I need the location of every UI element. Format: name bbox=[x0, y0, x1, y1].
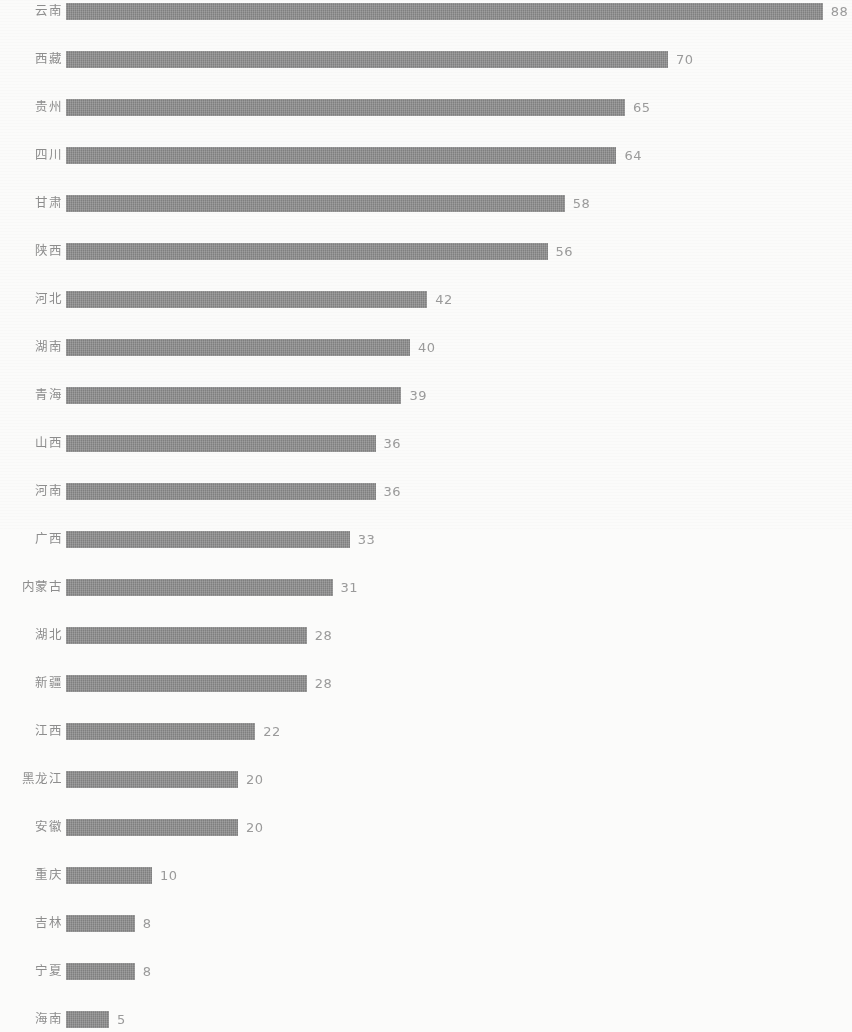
category-label: 湖北 bbox=[35, 624, 62, 648]
bar-wrapper bbox=[66, 147, 616, 164]
bar bbox=[66, 1011, 109, 1028]
bar-row: 湖南40 bbox=[0, 336, 852, 360]
bar-chart-rows: 云南88西藏70贵州65四川64甘肃58陕西56河北42湖南40青海39山西36… bbox=[0, 0, 852, 528]
value-label: 40 bbox=[418, 336, 436, 360]
value-label: 36 bbox=[384, 480, 402, 504]
bar bbox=[66, 531, 350, 548]
bar-row: 青海39 bbox=[0, 384, 852, 408]
bar-row: 湖北28 bbox=[0, 624, 852, 648]
value-label: 8 bbox=[143, 912, 152, 936]
value-label: 20 bbox=[246, 768, 264, 792]
bar-wrapper bbox=[66, 387, 401, 404]
bar bbox=[66, 291, 427, 308]
category-label: 黑龙江 bbox=[22, 768, 62, 792]
value-label: 28 bbox=[315, 624, 333, 648]
value-label: 10 bbox=[160, 864, 178, 888]
bar-row: 新疆28 bbox=[0, 672, 852, 696]
value-label: 56 bbox=[556, 240, 574, 264]
value-label: 31 bbox=[341, 576, 359, 600]
bar-wrapper bbox=[66, 195, 565, 212]
bar bbox=[66, 243, 548, 260]
value-label: 33 bbox=[358, 528, 376, 552]
value-label: 28 bbox=[315, 672, 333, 696]
value-label: 39 bbox=[409, 384, 427, 408]
bar bbox=[66, 915, 135, 932]
category-label: 宁夏 bbox=[35, 960, 62, 984]
category-label: 江西 bbox=[35, 720, 62, 744]
value-label: 70 bbox=[676, 48, 694, 72]
bar-row: 海南5 bbox=[0, 1008, 852, 1032]
bar-row: 河南36 bbox=[0, 480, 852, 504]
value-label: 42 bbox=[435, 288, 453, 312]
bar-row: 宁夏8 bbox=[0, 960, 852, 984]
value-label: 65 bbox=[633, 96, 651, 120]
category-label: 重庆 bbox=[35, 864, 62, 888]
bar bbox=[66, 675, 307, 692]
category-label: 陕西 bbox=[35, 240, 62, 264]
bar bbox=[66, 867, 152, 884]
bar-wrapper bbox=[66, 819, 238, 836]
bar-row: 黑龙江20 bbox=[0, 768, 852, 792]
bar-row: 陕西56 bbox=[0, 240, 852, 264]
bar-wrapper bbox=[66, 339, 410, 356]
category-label: 湖南 bbox=[35, 336, 62, 360]
category-label: 安徽 bbox=[35, 816, 62, 840]
category-label: 吉林 bbox=[35, 912, 62, 936]
bar-row: 广西33 bbox=[0, 528, 852, 552]
bar bbox=[66, 963, 135, 980]
bar-wrapper bbox=[66, 627, 307, 644]
category-label: 云南 bbox=[35, 0, 62, 24]
bar-wrapper bbox=[66, 963, 135, 980]
category-label: 内蒙古 bbox=[22, 576, 62, 600]
bar-wrapper bbox=[66, 291, 427, 308]
bar bbox=[66, 723, 255, 740]
bar bbox=[66, 339, 410, 356]
bar-row: 吉林8 bbox=[0, 912, 852, 936]
category-label: 四川 bbox=[35, 144, 62, 168]
bar-wrapper bbox=[66, 675, 307, 692]
bar-wrapper bbox=[66, 435, 376, 452]
bar-wrapper bbox=[66, 3, 823, 20]
bar bbox=[66, 387, 401, 404]
bar bbox=[66, 627, 307, 644]
value-label: 8 bbox=[143, 960, 152, 984]
bar-row: 甘肃58 bbox=[0, 192, 852, 216]
value-label: 20 bbox=[246, 816, 264, 840]
value-label: 36 bbox=[384, 432, 402, 456]
bar bbox=[66, 435, 376, 452]
bar-row: 山西36 bbox=[0, 432, 852, 456]
category-label: 甘肃 bbox=[35, 192, 62, 216]
bar-row: 安徽20 bbox=[0, 816, 852, 840]
bar-row: 西藏70 bbox=[0, 48, 852, 72]
bar-wrapper bbox=[66, 723, 255, 740]
bar bbox=[66, 819, 238, 836]
bar-wrapper bbox=[66, 867, 152, 884]
category-label: 青海 bbox=[35, 384, 62, 408]
bar-row: 四川64 bbox=[0, 144, 852, 168]
bar-wrapper bbox=[66, 771, 238, 788]
category-label: 山西 bbox=[35, 432, 62, 456]
bar-wrapper bbox=[66, 243, 548, 260]
bar bbox=[66, 51, 668, 68]
category-label: 河南 bbox=[35, 480, 62, 504]
bar-wrapper bbox=[66, 1011, 109, 1028]
value-label: 22 bbox=[263, 720, 281, 744]
bar-wrapper bbox=[66, 51, 668, 68]
category-label: 海南 bbox=[35, 1008, 62, 1032]
value-label: 64 bbox=[624, 144, 642, 168]
bar-wrapper bbox=[66, 915, 135, 932]
bar bbox=[66, 147, 616, 164]
category-label: 广西 bbox=[35, 528, 62, 552]
bar-wrapper bbox=[66, 579, 333, 596]
bar-row: 内蒙古31 bbox=[0, 576, 852, 600]
bar bbox=[66, 99, 625, 116]
bar-wrapper bbox=[66, 99, 625, 116]
bar bbox=[66, 579, 333, 596]
bar bbox=[66, 195, 565, 212]
value-label: 58 bbox=[573, 192, 591, 216]
bar bbox=[66, 483, 376, 500]
bar-wrapper bbox=[66, 483, 376, 500]
value-label: 5 bbox=[117, 1008, 126, 1032]
category-label: 西藏 bbox=[35, 48, 62, 72]
